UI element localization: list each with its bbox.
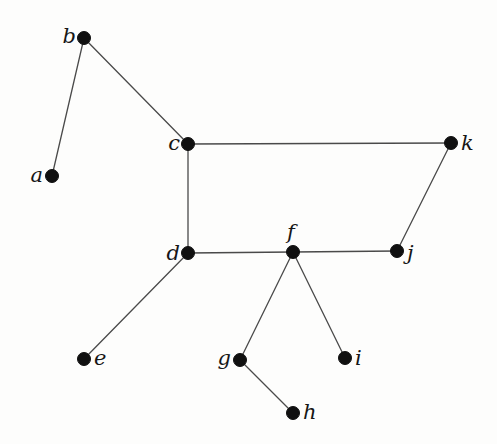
node-label-e: e [94, 346, 106, 370]
node-label-k: k [461, 131, 474, 155]
labels-layer: abcdefghijk [30, 24, 473, 424]
node-e [78, 353, 91, 366]
graph-svg: abcdefghijk [0, 0, 497, 444]
node-label-h: h [303, 400, 317, 424]
edge-d-e [84, 253, 188, 359]
edge-c-k [188, 143, 451, 144]
edge-j-k [397, 143, 451, 251]
node-label-g: g [218, 346, 231, 370]
edge-f-i [293, 252, 345, 358]
node-label-f: f [285, 220, 298, 244]
edge-a-b [52, 38, 84, 176]
edge-b-c [84, 38, 188, 144]
node-k [445, 137, 458, 150]
node-a [46, 170, 59, 183]
edge-f-j [293, 251, 397, 252]
node-i [339, 352, 352, 365]
node-h [287, 407, 300, 420]
node-g [234, 354, 247, 367]
node-label-i: i [355, 346, 362, 370]
graph-diagram: abcdefghijk [0, 0, 497, 444]
node-label-c: c [168, 131, 180, 155]
node-label-a: a [30, 163, 43, 187]
node-label-j: j [403, 241, 414, 265]
node-label-b: b [63, 24, 76, 48]
node-b [78, 32, 91, 45]
edge-f-g [240, 252, 293, 360]
edge-g-h [240, 360, 293, 413]
node-f [287, 246, 300, 259]
node-c [182, 138, 195, 151]
edges-layer [52, 38, 451, 413]
node-label-d: d [167, 241, 180, 265]
edge-d-f [188, 252, 293, 253]
node-j [391, 245, 404, 258]
nodes-layer [46, 32, 458, 420]
node-d [182, 247, 195, 260]
